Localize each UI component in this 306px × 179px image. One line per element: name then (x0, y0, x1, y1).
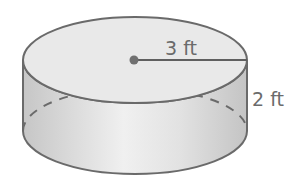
radius-label: 3 ft (165, 37, 197, 59)
height-label: 2 ft (252, 88, 284, 110)
cylinder-diagram: 3 ft 2 ft (0, 0, 306, 179)
center-point (130, 56, 139, 65)
